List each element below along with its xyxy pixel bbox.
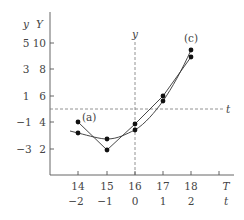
x-primary-tick: 17 [156,180,169,192]
y-secondary-tick: 1 [23,90,30,102]
x-primary-tick: 15 [100,180,113,192]
point-c [133,128,138,133]
y-primary-tick: 4 [39,116,46,128]
y-secondary-tick: −3 [16,143,31,155]
x-primary-tick: 14 [71,180,85,192]
x-primary-tick: 18 [184,180,197,192]
x-primary-label: T [222,180,230,192]
point-a [76,120,81,125]
x-primary-tick: 16 [128,180,142,192]
point-a [161,94,166,99]
y-primary-tick: 6 [39,90,46,102]
y-secondary-tick: 3 [23,63,30,75]
series-a-line [78,57,191,150]
y-secondary-tick: −1 [16,116,31,128]
x-secondary-label: t [224,195,229,207]
x-secondary-tick: −2 [68,195,83,207]
y-primary-tick: 8 [39,63,46,75]
x-secondary-tick: −1 [97,195,112,207]
point-a [133,122,138,127]
point-a [105,148,110,153]
x-secondary-tick: 0 [132,195,139,207]
point-c [189,48,194,53]
annotation-a: (a) [82,111,96,123]
x-secondary-tick: 1 [160,195,167,207]
annotation-c: (c) [184,32,198,44]
point-c [76,131,81,136]
y-dashed-label: y [131,28,139,40]
y-primary-tick: 2 [39,143,46,155]
t-axis-label: t [226,103,231,115]
y-ticks [50,43,54,149]
x-secondary-tick: 2 [188,195,195,207]
y-secondary-label: y [22,18,30,30]
point-a [189,55,194,60]
chart: y Y 5 10 3 8 1 6 −1 4 −3 2 14 15 16 17 1… [0,0,244,220]
x-ticks [78,171,219,175]
point-c [161,99,166,104]
point-c [105,137,110,142]
series-c-line [70,50,191,139]
y-primary-label: Y [36,18,44,30]
y-secondary-tick: 5 [23,37,30,49]
y-primary-tick: 10 [33,37,46,49]
